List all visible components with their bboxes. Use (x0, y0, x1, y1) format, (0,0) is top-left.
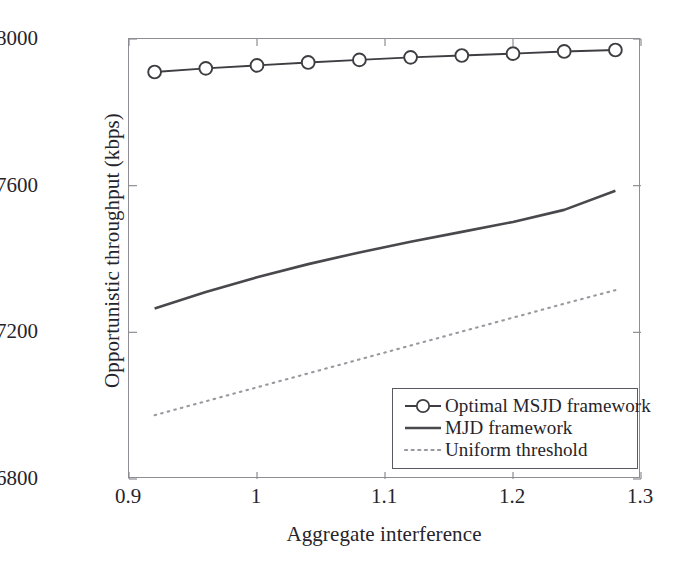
y-tick-label: 8000 (0, 26, 38, 51)
x-tick-label: 1.1 (339, 484, 429, 509)
y-tick-label: 6800 (0, 466, 38, 491)
legend-label: Uniform threshold (445, 439, 588, 461)
x-tick-label: 0.9 (83, 484, 173, 509)
data-point-marker (455, 49, 468, 62)
y-tick-label: 7600 (0, 173, 38, 198)
solid-line-icon (401, 418, 445, 438)
circle-marker-line-icon (401, 396, 445, 416)
legend-item-uniform-threshold: Uniform threshold (401, 439, 629, 461)
legend-label: Optimal MSJD framework (445, 395, 651, 417)
data-point-marker (353, 54, 366, 67)
data-point-marker (251, 59, 264, 72)
data-point-marker (302, 56, 315, 69)
data-point-marker (609, 44, 622, 57)
x-tick-label: 1.3 (595, 484, 685, 509)
legend-item-mjd: MJD framework (401, 417, 629, 439)
data-point-marker (148, 66, 161, 79)
x-tick-label: 1.2 (467, 484, 557, 509)
y-tick-label: 7200 (0, 319, 38, 344)
legend-label: MJD framework (445, 417, 572, 439)
series-line (155, 50, 616, 72)
dotted-line-icon (401, 440, 445, 460)
y-axis-title: Opportunistic throughput (kbps) (100, 31, 125, 471)
legend-box: Optimal MSJD framework MJD framework Uni… (392, 388, 638, 469)
data-point-marker (507, 47, 520, 60)
data-point-marker (199, 62, 212, 75)
x-axis-title: Aggregate interference (128, 522, 640, 547)
x-tick-label: 1 (211, 484, 301, 509)
data-point-marker (558, 45, 571, 58)
data-point-marker (404, 51, 417, 64)
data-series-layer (148, 44, 622, 416)
chart-figure: Opportunistic throughput (kbps) Aggregat… (0, 0, 686, 569)
legend-item-optimal-msjd: Optimal MSJD framework (401, 395, 629, 417)
series-line (155, 191, 616, 309)
